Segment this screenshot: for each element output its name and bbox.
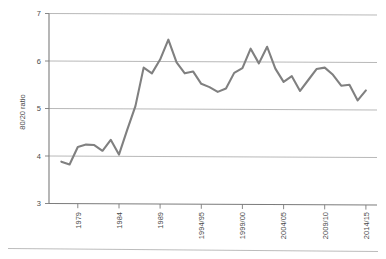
gridline-4 [49, 156, 377, 158]
y-tick-label-3: 3 [37, 199, 41, 208]
x-axis-tick-labels: 1979 1984 1989 1994/95 1999/00 2004/05 2… [74, 212, 371, 239]
y-axis-title: 80/20 ratio [18, 94, 27, 129]
x-tick-label-1999-00: 1999/00 [238, 212, 247, 239]
series-line-80-20-ratio [61, 40, 366, 165]
x-tick-label-1979: 1979 [74, 212, 83, 229]
x-tick-label-1994-95: 1994/95 [197, 212, 206, 239]
x-tick-label-2014-15: 2014/15 [362, 212, 371, 239]
y-tick-label-4: 4 [37, 152, 41, 161]
x-tick-label-1989: 1989 [156, 212, 165, 229]
chart-figure: 7 6 5 4 3 80/20 ratio 1979 1984 1989 199… [0, 0, 386, 259]
y-axis-tick-labels: 7 6 5 4 3 [37, 9, 41, 208]
y-axis-ticks [45, 14, 49, 204]
gridline-7 [49, 14, 377, 16]
gridlines [49, 14, 377, 158]
line-chart: 7 6 5 4 3 80/20 ratio 1979 1984 1989 199… [0, 0, 386, 259]
x-axis-line [49, 204, 377, 206]
y-axis-title-group: 80/20 ratio [18, 94, 27, 129]
gridline-5 [49, 109, 377, 111]
y-tick-label-5: 5 [37, 104, 41, 113]
x-tick-label-1984: 1984 [115, 212, 124, 229]
x-tick-label-2004-05: 2004/05 [279, 212, 288, 239]
x-tick-label-2009-10: 2009/10 [321, 212, 330, 239]
footer-divider [8, 249, 378, 252]
y-tick-label-6: 6 [37, 57, 41, 66]
y-tick-label-7: 7 [37, 9, 41, 18]
gridline-6 [49, 61, 377, 63]
data-series-group [61, 40, 366, 165]
